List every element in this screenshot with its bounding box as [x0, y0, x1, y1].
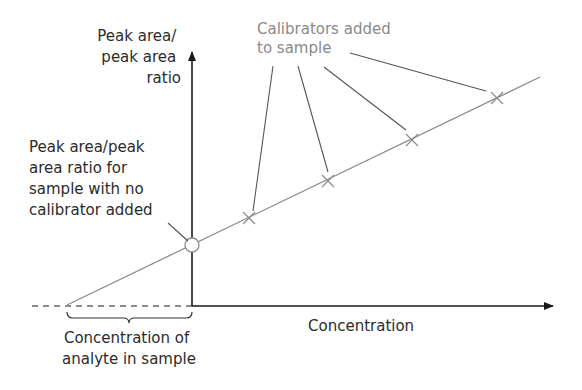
analyte-concentration-annotation: Concentration of analyte in sample — [62, 329, 196, 368]
no-calibrator-annotation: Peak area/peak area ratio for sample wit… — [29, 138, 153, 219]
standard-addition-diagram: Peak area/ peak area ratio Calibrators a… — [0, 0, 582, 390]
y-axis-label: Peak area/ peak area ratio — [97, 27, 181, 87]
calibrators-annotation: Calibrators added to sample — [257, 20, 395, 57]
diagram-canvas: Peak area/ peak area ratio Calibrators a… — [0, 0, 582, 390]
no-calibrator-leader-line — [168, 223, 188, 241]
analyte-brace — [67, 312, 192, 323]
x-axis-label: Concentration — [308, 317, 414, 335]
cross-icon — [491, 92, 503, 104]
cross-icon — [243, 212, 255, 224]
calibrator-leader-lines — [253, 53, 486, 211]
cross-icon — [406, 134, 418, 146]
